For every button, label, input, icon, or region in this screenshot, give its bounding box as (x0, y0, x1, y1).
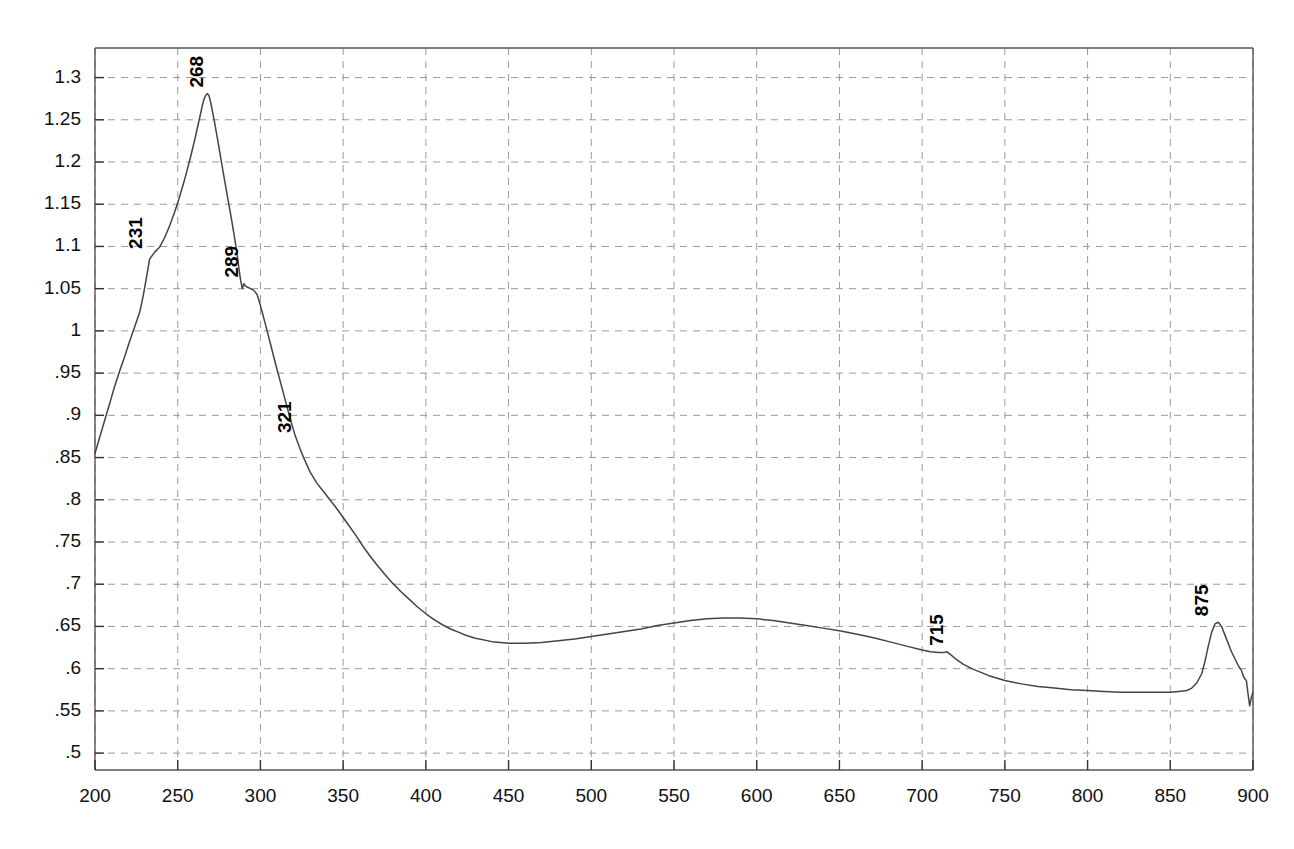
y-tick-label: .5 (65, 741, 81, 762)
y-tick-label: 1.2 (55, 150, 81, 171)
y-tick-label: 1.25 (44, 108, 81, 129)
y-tick-label: .8 (65, 488, 81, 509)
x-tick-label: 750 (989, 785, 1021, 806)
y-tick-label: 1.1 (55, 234, 81, 255)
y-tick-label: 1.3 (55, 66, 81, 87)
peak-label-231: 231 (125, 217, 146, 249)
x-tick-label: 250 (162, 785, 194, 806)
x-tick-label: 600 (741, 785, 773, 806)
y-tick-label: .85 (55, 446, 81, 467)
x-tick-label: 800 (1072, 785, 1104, 806)
peak-label-715: 715 (926, 614, 947, 646)
x-tick-label: 500 (575, 785, 607, 806)
y-tick-label: .9 (65, 403, 81, 424)
y-tick-label: .7 (65, 572, 81, 593)
peak-label-875: 875 (1191, 584, 1212, 616)
y-tick-label: 1.15 (44, 192, 81, 213)
x-tick-label: 550 (658, 785, 690, 806)
y-tick-label: .65 (55, 614, 81, 635)
grid-lines (95, 48, 1253, 770)
spectrum-plot: .5.55.6.65.7.75.8.85.9.9511.051.11.151.2… (0, 0, 1294, 849)
x-tick-label: 650 (824, 785, 856, 806)
y-tick-label: .6 (65, 657, 81, 678)
x-tick-label: 850 (1154, 785, 1186, 806)
y-tick-label: .95 (55, 361, 81, 382)
x-axis-tick-labels: 2002503003504004505005506006507007508008… (79, 785, 1269, 806)
y-tick-label: .75 (55, 530, 81, 551)
y-tick-label: 1 (70, 319, 81, 340)
peak-label-289: 289 (221, 246, 242, 278)
y-tick-label: .55 (55, 699, 81, 720)
x-tick-label: 900 (1237, 785, 1269, 806)
x-tick-label: 400 (410, 785, 442, 806)
peak-label-321: 321 (274, 401, 295, 433)
peak-annotations: 231268289321715875 (125, 56, 1211, 646)
x-tick-label: 350 (327, 785, 359, 806)
chart-canvas: .5.55.6.65.7.75.8.85.9.9511.051.11.151.2… (0, 0, 1294, 849)
y-axis-tick-labels: .5.55.6.65.7.75.8.85.9.9511.051.11.151.2… (44, 66, 81, 763)
x-tick-label: 450 (493, 785, 525, 806)
peak-label-268: 268 (187, 56, 208, 88)
y-tick-label: 1.05 (44, 277, 81, 298)
x-tick-label: 300 (245, 785, 277, 806)
x-tick-label: 200 (79, 785, 111, 806)
x-tick-label: 700 (906, 785, 938, 806)
